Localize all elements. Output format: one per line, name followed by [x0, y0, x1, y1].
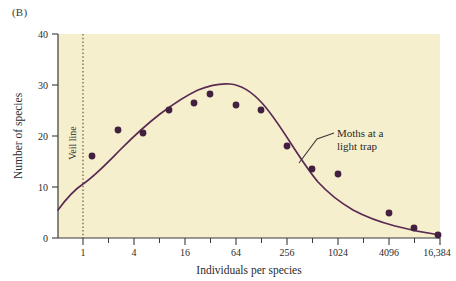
ytick-label-10: 10	[38, 182, 48, 193]
veil-line-label: Veil line	[67, 126, 78, 160]
x-axis-minor-ticks	[109, 238, 415, 243]
data-point	[233, 102, 240, 109]
data-point	[386, 210, 393, 217]
xtick-label-1: 1	[81, 247, 86, 258]
xtick-label-16384: 16,384	[423, 247, 451, 258]
y-axis-title: Number of species	[12, 92, 25, 179]
data-point	[140, 130, 147, 137]
data-point	[435, 232, 442, 239]
x-axis-title: Individuals per species	[196, 264, 302, 277]
series-callout-line2: light trap	[337, 140, 378, 152]
series-callout-line1: Moths at a	[337, 127, 384, 139]
xtick-label-4: 4	[132, 247, 137, 258]
data-point	[309, 166, 316, 173]
y-axis-ticks	[52, 34, 58, 238]
data-point	[115, 127, 122, 134]
data-point	[207, 91, 214, 98]
ytick-label-30: 30	[38, 80, 48, 91]
data-point	[191, 100, 198, 107]
ytick-label-0: 0	[43, 233, 48, 244]
xtick-label-256: 256	[280, 247, 295, 258]
figure-panel-b: (B) 0 10 20 30 40 Number of species	[0, 0, 456, 281]
species-abundance-chart: 0 10 20 30 40 Number of species	[0, 0, 456, 281]
data-point	[258, 107, 265, 114]
ytick-label-20: 20	[38, 131, 48, 142]
data-point	[166, 107, 173, 114]
xtick-label-16: 16	[180, 247, 190, 258]
xtick-label-64: 64	[231, 247, 241, 258]
xtick-label-1024: 1024	[328, 247, 348, 258]
xtick-label-4096: 4096	[379, 247, 399, 258]
data-point	[89, 153, 96, 160]
data-point	[284, 143, 291, 150]
data-point	[335, 171, 342, 178]
ytick-label-40: 40	[38, 29, 48, 40]
data-point	[411, 225, 418, 232]
